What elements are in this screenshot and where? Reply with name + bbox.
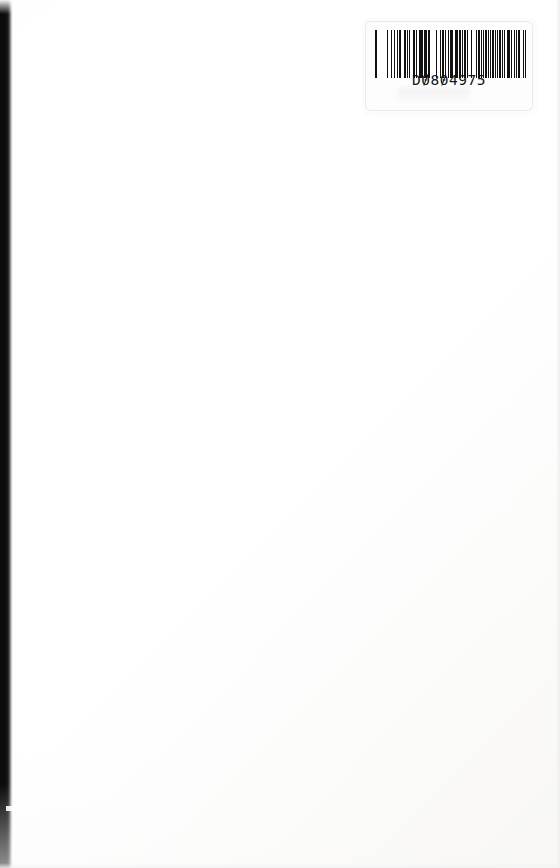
barcode-char-zero: 0 bbox=[421, 72, 430, 88]
scanner-edge-shadow bbox=[0, 0, 13, 868]
barcode-char: D bbox=[412, 72, 421, 88]
scan-smudge bbox=[398, 88, 470, 104]
barcode-char: 5 bbox=[477, 72, 486, 88]
page-edge-right bbox=[556, 0, 560, 868]
barcode-char: 8 bbox=[431, 72, 440, 88]
barcode-number-text: D0804975 bbox=[366, 72, 532, 88]
barcode-char: 4 bbox=[449, 72, 458, 88]
barcode-char-zero: 0 bbox=[440, 72, 449, 88]
scanner-edge-nick bbox=[6, 806, 14, 811]
scanned-page: D0804975 bbox=[0, 0, 560, 868]
barcode-char: 7 bbox=[467, 72, 476, 88]
scanner-edge-top-fade bbox=[0, 0, 14, 14]
page-body-text bbox=[40, 140, 510, 780]
page-edge-bottom bbox=[0, 863, 560, 868]
barcode-bars bbox=[375, 30, 528, 78]
barcode-bar bbox=[526, 30, 528, 78]
